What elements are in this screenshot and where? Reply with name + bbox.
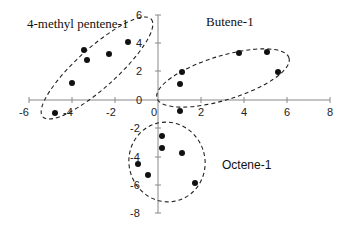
x-tick-label: 4 [241, 106, 247, 118]
x-tick-label: -2 [106, 106, 116, 118]
x-tick-label: 2 [198, 106, 204, 118]
series-4-methyl-pentene [52, 39, 131, 116]
data-point [192, 180, 198, 186]
data-point [264, 49, 270, 55]
data-point [69, 80, 75, 86]
y-tick-label: -2 [130, 122, 140, 134]
x-tick-label: -4 [63, 106, 73, 118]
x-tick-label: -6 [19, 106, 29, 118]
cluster-outline-butene [151, 37, 296, 119]
data-point [52, 110, 58, 116]
series-butene [177, 49, 281, 114]
y-tick-label: 6 [136, 9, 142, 21]
data-point [106, 51, 112, 57]
label-butene: Butene-1 [206, 14, 254, 29]
data-point [84, 57, 90, 63]
y-tick-label: 4 [136, 37, 142, 49]
data-point [236, 50, 242, 56]
data-point [177, 81, 183, 87]
y-tick-label: 2 [136, 65, 142, 77]
data-point [81, 47, 87, 53]
data-point [145, 172, 151, 178]
series-octene [135, 133, 198, 186]
data-point [135, 161, 141, 167]
y-tick-label: -6 [130, 179, 140, 191]
label-4-methyl-pentene: 4-methyl pentene-1 [27, 16, 128, 31]
x-tick-label: 8 [327, 106, 333, 118]
data-point [159, 133, 165, 139]
x-tick-label: 0 [151, 106, 157, 118]
x-tick-label: 6 [284, 106, 290, 118]
data-point [125, 39, 131, 45]
y-tick-label: -8 [130, 207, 140, 219]
data-point [179, 69, 185, 75]
data-point [179, 150, 185, 156]
data-point [177, 108, 183, 114]
y-tick-label: 0 [136, 94, 142, 106]
scatter-chart: -6 -4 -2 0 2 4 6 8 6 4 2 0 -2 -4 -6 -8 [0, 0, 347, 227]
data-point [159, 145, 165, 151]
data-point [275, 69, 281, 75]
label-octene: Octene-1 [222, 158, 272, 172]
